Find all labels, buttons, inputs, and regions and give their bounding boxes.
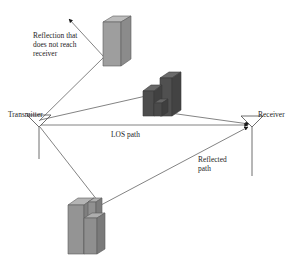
label-los-path: LOS path — [111, 130, 140, 139]
building-lower — [68, 198, 105, 254]
building-lower-tall-front — [68, 205, 84, 254]
building-middle-low-front — [154, 103, 162, 116]
building-middle-left-front — [143, 91, 154, 116]
ray-incident-middle — [40, 96, 146, 120]
building-upper-front-face — [103, 22, 121, 66]
building-upper-side-face — [121, 16, 131, 66]
ray-incident-upper — [39, 57, 104, 121]
building-lower-right-front — [84, 218, 97, 254]
ray-reflected-middle-to-receiver — [170, 113, 249, 124]
propagation-diagram: Reflection that does not reach receiver … — [0, 0, 302, 265]
building-upper — [103, 16, 131, 66]
label-receiver: Receiver — [258, 110, 285, 119]
building-middle-tall-side — [172, 72, 181, 116]
label-reflected-path: Reflected path — [198, 155, 244, 173]
ray-incident-lower — [40, 127, 101, 205]
building-lower-right-side — [97, 213, 105, 254]
label-transmitter: Transmitter — [8, 110, 43, 119]
building-middle — [143, 72, 181, 116]
label-reflection-not-reaching: Reflection that does not reach receiver — [33, 31, 95, 59]
